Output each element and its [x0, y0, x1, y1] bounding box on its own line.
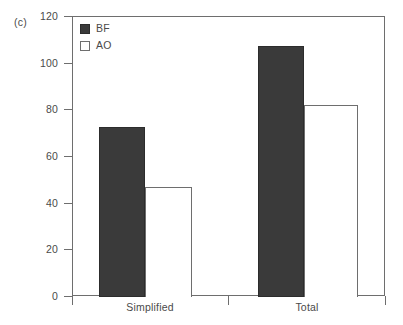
- y-tick-100: [64, 63, 73, 64]
- legend-label-bf: BF: [96, 23, 110, 34]
- y-tick-80: [64, 109, 73, 110]
- bar-simplified-ao: [145, 187, 192, 297]
- figure-panel-c: (c) 120 100 80 60 40 20 0 Simplified Tot…: [0, 0, 403, 325]
- x-tick-group-divider: [228, 296, 229, 305]
- y-axis-label-0: 0: [18, 290, 58, 302]
- bar-simplified-bf: [99, 127, 145, 297]
- legend: BF AO: [80, 21, 112, 55]
- bar-total-bf: [258, 46, 304, 297]
- legend-item-ao: AO: [80, 38, 112, 53]
- x-axis-label-simplified: Simplified: [126, 301, 174, 313]
- x-tick-left-end: [72, 296, 73, 305]
- y-tick-60: [64, 156, 73, 157]
- y-axis-label-40: 40: [18, 197, 58, 209]
- legend-swatch-ao-icon: [80, 41, 90, 51]
- x-axis-label-total: Total: [295, 301, 318, 313]
- x-tick-right-end: [385, 296, 386, 305]
- y-axis-label-20: 20: [18, 243, 58, 255]
- y-axis-label-100: 100: [18, 57, 58, 69]
- legend-item-bf: BF: [80, 21, 112, 36]
- legend-label-ao: AO: [96, 40, 112, 51]
- y-tick-20: [64, 249, 73, 250]
- y-tick-40: [64, 203, 73, 204]
- bar-total-ao: [304, 105, 358, 297]
- y-axis-label-80: 80: [18, 103, 58, 115]
- y-tick-120: [64, 16, 73, 17]
- y-axis-label-120: 120: [18, 10, 58, 22]
- y-axis-label-60: 60: [18, 150, 58, 162]
- legend-swatch-bf-icon: [80, 24, 90, 34]
